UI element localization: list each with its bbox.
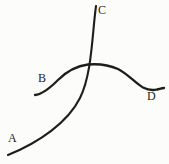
curves-svg bbox=[0, 0, 169, 164]
label-d: D bbox=[147, 90, 156, 102]
curve-b-to-d bbox=[35, 64, 164, 95]
label-c: C bbox=[98, 4, 106, 16]
label-a: A bbox=[8, 132, 17, 144]
label-b: B bbox=[38, 72, 46, 84]
curve-a-to-c bbox=[8, 6, 96, 155]
curve-diagram: A B C D bbox=[0, 0, 169, 164]
